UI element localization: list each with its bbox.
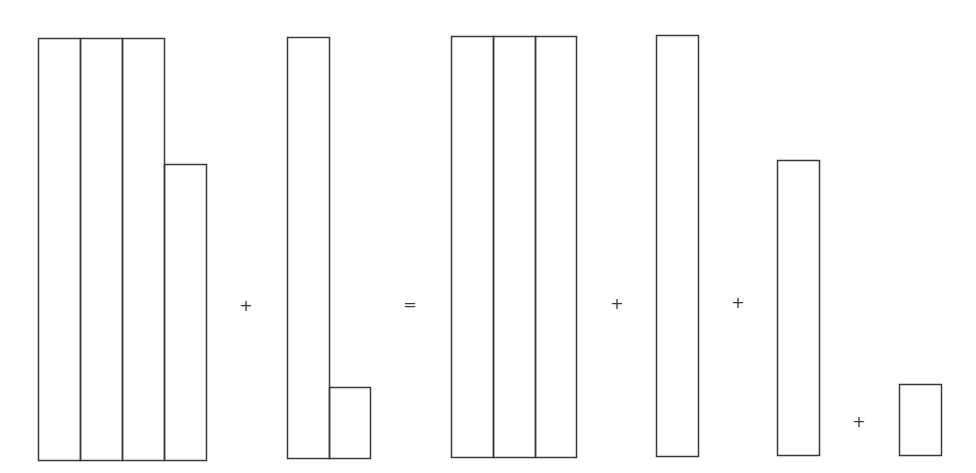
term-2-group: [288, 38, 371, 459]
bar-rect: [900, 385, 942, 456]
result-2-group: [657, 36, 699, 457]
bar-rect: [778, 161, 820, 456]
bar-rect: [330, 388, 371, 459]
bar-rect: [494, 37, 536, 458]
equals-sign: =: [403, 297, 416, 313]
bar-rect: [123, 39, 165, 461]
bar-addition-diagram: [0, 0, 976, 473]
term-1-group: [39, 39, 207, 461]
plus-sign: +: [610, 296, 623, 312]
result-3-group: [778, 161, 820, 456]
result-4-group: [900, 385, 942, 456]
bar-rect: [81, 39, 123, 461]
result-1-group: [452, 37, 577, 458]
plus-sign: +: [239, 298, 252, 314]
bar-rect: [165, 165, 207, 461]
bar-rect: [536, 37, 577, 458]
plus-sign: +: [731, 295, 744, 311]
plus-sign: +: [852, 414, 865, 430]
bar-rect: [288, 38, 330, 459]
bar-rect: [452, 37, 494, 458]
bar-rect: [39, 39, 81, 461]
bar-rect: [657, 36, 699, 457]
